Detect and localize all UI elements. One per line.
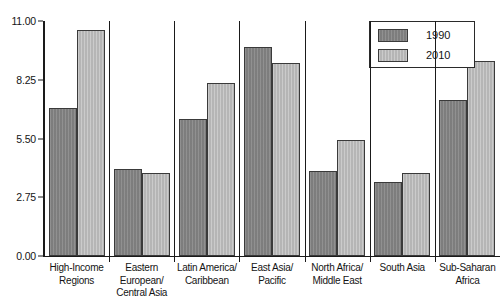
y-tick-mark	[38, 197, 43, 198]
bar-2010[interactable]	[402, 173, 430, 256]
y-tick-label: 11.00	[0, 16, 36, 26]
bar-1990[interactable]	[49, 108, 77, 256]
y-tick-label: 5.50	[0, 134, 36, 144]
x-axis-label-line: Middle East	[299, 275, 376, 288]
bar-group	[44, 21, 109, 256]
y-tick-label: 2.75	[0, 192, 36, 202]
group-separator	[305, 21, 306, 262]
bar-2010[interactable]	[272, 63, 300, 256]
legend-item-1990[interactable]: 1990	[378, 28, 450, 43]
bar-2010[interactable]	[77, 30, 105, 256]
bar-group	[174, 21, 239, 256]
group-separator	[109, 21, 110, 262]
x-axis-label-line: Africa	[429, 275, 503, 288]
group-separator	[239, 21, 240, 262]
bar-2010[interactable]	[467, 61, 495, 256]
legend-item-2010[interactable]: 2010	[378, 48, 450, 63]
group-separator	[174, 21, 175, 262]
bar-2010[interactable]	[337, 140, 365, 256]
legend-label-2010: 2010	[426, 50, 450, 61]
group-separator	[435, 21, 436, 262]
chart-legend: 1990 2010	[369, 21, 475, 68]
x-axis-label-line: Sub-Saharan	[429, 262, 503, 275]
bar-1990[interactable]	[114, 169, 142, 256]
bar-1990[interactable]	[374, 182, 402, 256]
y-tick-mark	[38, 79, 43, 80]
bar-2010[interactable]	[142, 173, 170, 256]
bar-chart: 0.002.755.508.2511.00 High-IncomeRegions…	[0, 0, 503, 302]
bar-2010[interactable]	[207, 83, 235, 256]
y-tick-mark	[38, 138, 43, 139]
y-axis: 0.002.755.508.2511.00	[0, 0, 36, 302]
legend-label-1990: 1990	[426, 30, 450, 41]
bar-1990[interactable]	[439, 100, 467, 256]
bar-1990[interactable]	[244, 47, 272, 256]
bar-1990[interactable]	[309, 171, 337, 256]
x-axis-label-line: Central Asia	[103, 287, 180, 300]
x-axis-category-labels: High-IncomeRegionsEastern European/Centr…	[44, 262, 500, 302]
legend-swatch-2010-icon	[378, 49, 408, 62]
y-tick-label: 8.25	[0, 75, 36, 85]
bar-group	[239, 21, 304, 256]
bar-group	[109, 21, 174, 256]
bar-group	[305, 21, 370, 256]
x-axis-label: Sub-SaharanAfrica	[429, 262, 503, 287]
y-tick-label: 0.00	[0, 251, 36, 261]
y-tick-mark	[38, 21, 43, 22]
y-tick-mark	[38, 256, 43, 257]
bar-1990[interactable]	[179, 119, 207, 256]
legend-swatch-1990-icon	[378, 29, 408, 42]
group-separator	[370, 21, 371, 262]
